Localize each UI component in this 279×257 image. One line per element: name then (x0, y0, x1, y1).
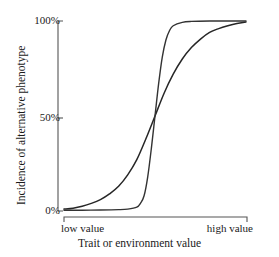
y-tick-label-0: 0% (45, 205, 60, 216)
x-axis-title: Trait or environment value (0, 238, 279, 250)
chart-figure: 100% 50% 0% low value high value Trait o… (0, 0, 279, 257)
y-tick-label-100: 100% (34, 15, 60, 26)
curve-threshold (64, 21, 246, 210)
y-axis-title: Incidence of alternative phenotype (16, 46, 28, 205)
x-tick-label-low: low value (61, 223, 104, 234)
y-tick-label-50: 50% (40, 112, 60, 123)
x-tick-label-high: high value (207, 223, 253, 234)
plot-area (0, 0, 279, 257)
